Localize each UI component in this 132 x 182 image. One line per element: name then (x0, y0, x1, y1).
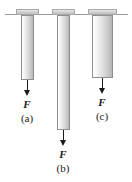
force-arrow-c (96, 78, 109, 94)
rod-body-c (92, 15, 113, 78)
force-label-c: F (92, 97, 112, 108)
hanging-rods-figure: F (a) F (b) F (c) (0, 0, 132, 182)
rod-body-b (57, 15, 70, 130)
part-label-c: (c) (91, 111, 113, 122)
part-label-a: (a) (16, 113, 38, 124)
force-label-a: F (17, 99, 37, 110)
part-label-b: (b) (52, 163, 74, 174)
force-label-b: F (53, 149, 73, 160)
rod-body-a (21, 15, 34, 80)
force-arrow-b (57, 130, 70, 146)
force-arrow-a (21, 80, 34, 96)
